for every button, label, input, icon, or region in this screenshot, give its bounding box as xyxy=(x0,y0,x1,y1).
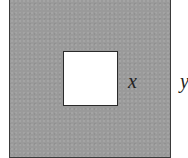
inner-side-label: x xyxy=(128,71,137,91)
inner-square xyxy=(63,51,118,106)
outer-side-label: y xyxy=(180,71,188,91)
